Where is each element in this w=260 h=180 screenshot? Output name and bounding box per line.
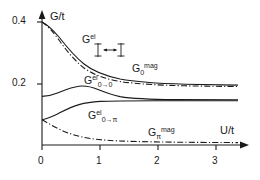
y-axis-title: G/t xyxy=(50,11,65,22)
x-tick-label-0: 0 xyxy=(38,156,44,166)
figure-container: 0.4 0.2 0 1 2 3 G/t U/t Gel G0mag Gel0→0… xyxy=(0,0,260,180)
curve-el-0-0 xyxy=(42,86,238,100)
curve-label-mag-pi-base: G xyxy=(148,126,156,138)
curve-label-el-0-pi-sub: 0→π xyxy=(102,116,118,123)
curve-label-mag-pi: Gπmag xyxy=(148,127,175,138)
x-tick-label-2: 2 xyxy=(154,156,160,166)
curve-label-el-0-pi-base: G xyxy=(88,109,96,121)
curve-mag-pi xyxy=(42,120,238,143)
curve-mag-0 xyxy=(42,22,238,87)
curve-label-el-0-0-base: G xyxy=(84,74,92,86)
curve-label-mag-0-sub: 0 xyxy=(140,69,144,76)
curve-label-mag-0-base: G xyxy=(132,62,140,74)
x-tick-marks xyxy=(100,145,216,150)
curve-label-el-0-0-sub: 0→0 xyxy=(98,81,113,88)
curve-label-el-0-0: Gel0→0 xyxy=(84,75,112,86)
y-tick-label-0-2: 0.2 xyxy=(12,78,26,88)
curve-label-mag-0-sup: mag xyxy=(144,62,158,69)
x-axis-title: U/t xyxy=(220,125,234,136)
curve-label-el-0-pi-sup: el xyxy=(96,109,101,116)
curve-label-mag-pi-sup: mag xyxy=(161,126,175,133)
x-tick-label-3: 3 xyxy=(212,156,218,166)
curve-label-mag-pi-sub: π xyxy=(156,133,161,140)
curve-el-0-pi xyxy=(42,101,238,120)
y-tick-label-0-4: 0.4 xyxy=(12,16,26,26)
curve-label-el-pi-pi: Gel xyxy=(82,34,96,45)
y-tick-marks xyxy=(37,22,42,84)
curve-label-el-0-0-sup: el xyxy=(92,74,97,81)
chart-plot xyxy=(0,0,260,180)
curve-group xyxy=(42,22,238,143)
axis-lines xyxy=(39,10,249,150)
curve-pointer-marks xyxy=(95,43,125,57)
curve-label-el-0-pi: Gel0→π xyxy=(88,110,117,121)
curve-label-mag-0: G0mag xyxy=(132,63,158,74)
curve-label-el-pi-pi-sup: el xyxy=(90,33,95,40)
curve-label-el-pi-pi-base: G xyxy=(82,33,90,45)
x-tick-label-1: 1 xyxy=(96,156,102,166)
